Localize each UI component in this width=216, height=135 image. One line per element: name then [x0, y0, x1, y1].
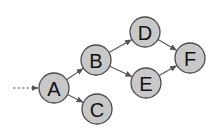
edge-d-f	[158, 40, 177, 51]
node-e-label: E	[139, 73, 152, 95]
node-f: F	[175, 43, 205, 73]
node-a-label: A	[47, 78, 61, 100]
node-f-label: F	[184, 48, 196, 70]
node-b-label: B	[89, 50, 102, 72]
edge-b-d	[109, 40, 132, 53]
node-d: D	[130, 17, 160, 47]
node-d-label: D	[138, 22, 152, 44]
edge-a-c	[67, 95, 83, 103]
node-b: B	[81, 45, 111, 75]
graph-diagram: A B C D E F	[0, 0, 216, 135]
node-e: E	[131, 68, 161, 98]
node-a: A	[39, 73, 69, 103]
node-c: C	[82, 94, 112, 124]
edge-b-e	[110, 66, 132, 76]
edge-a-b	[66, 69, 83, 80]
edge-e-f	[159, 66, 176, 76]
node-c-label: C	[90, 99, 104, 121]
